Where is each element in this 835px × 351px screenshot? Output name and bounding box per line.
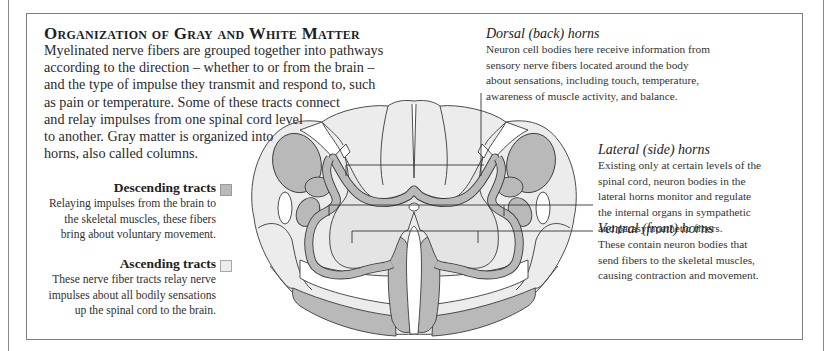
note-dorsal-text: Neuron cell bodies here receive informat… [486, 42, 710, 105]
note-line: send fibers to the skeletal muscles, [598, 253, 759, 269]
note-line: These contain neuron bodies that [598, 237, 759, 253]
intro-line: as pain or temperature. Some of these tr… [44, 94, 474, 111]
legend-line: impulses about all bodily sensations [49, 288, 216, 304]
legend-line: the skeletal muscles, these fibers [49, 212, 216, 228]
note-ventral-horns: Ventral (front) horns These contain neur… [598, 221, 759, 284]
legend-descending-label: Descending tracts [114, 180, 216, 196]
note-lateral-title: Lateral (side) horns [598, 142, 761, 158]
note-line: awareness of muscle activity, and balanc… [486, 89, 710, 105]
note-line: spinal cord, neuron bodies in the [598, 174, 761, 190]
intro-line: and relay impulses from one spinal cord … [44, 111, 474, 128]
legend-descending-text: Relaying impulses from the brain to the … [49, 196, 216, 243]
note-line: Neuron cell bodies here receive informat… [486, 42, 710, 58]
descending-swatch-icon [220, 184, 232, 196]
note-line: the internal organs in sympathetic [598, 205, 761, 221]
intro-line: horns, also called columns. [44, 145, 474, 162]
note-line: sensory nerve fibers located around the … [486, 58, 710, 74]
intro-line: and the type of impulse they transmit an… [44, 76, 474, 93]
note-ventral-title: Ventral (front) horns [598, 221, 759, 237]
legend-line: Relaying impulses from the brain to [49, 196, 216, 212]
ascending-swatch-icon [220, 260, 232, 272]
legend-ascending-label: Ascending tracts [120, 256, 216, 272]
legend-line: up the spinal cord to the brain. [49, 303, 216, 319]
note-line: Existing only at certain levels of the [598, 158, 761, 174]
note-line: lateral horns monitor and regulate [598, 189, 761, 205]
legend-ascending: Ascending tracts These nerve fiber tract… [49, 256, 216, 319]
page-title: Organization of Gray and White Matter [44, 24, 360, 44]
note-ventral-text: These contain neuron bodies that send fi… [598, 237, 759, 284]
intro-line: according to the direction – whether to … [44, 59, 474, 76]
legend-ascending-text: These nerve fiber tracts relay nerve imp… [49, 272, 216, 319]
central-canal [409, 203, 419, 211]
intro-paragraph: Myelinated nerve fibers are grouped toge… [44, 42, 474, 162]
legend-line: These nerve fiber tracts relay nerve [49, 272, 216, 288]
intro-line: to another. Gray matter is organized int… [44, 128, 474, 145]
note-dorsal-title: Dorsal (back) horns [486, 26, 710, 42]
note-line: about sensations, including touch, tempe… [486, 73, 710, 89]
note-dorsal-horns: Dorsal (back) horns Neuron cell bodies h… [486, 26, 710, 105]
legend-descending: Descending tracts Relaying impulses from… [49, 180, 216, 243]
note-line: causing contraction and movement. [598, 268, 759, 284]
intro-line: Myelinated nerve fibers are grouped toge… [44, 42, 474, 59]
legend-ascending-title: Ascending tracts [49, 256, 216, 272]
legend-line: bring about voluntary movement. [49, 227, 216, 243]
legend-descending-title: Descending tracts [49, 180, 216, 196]
